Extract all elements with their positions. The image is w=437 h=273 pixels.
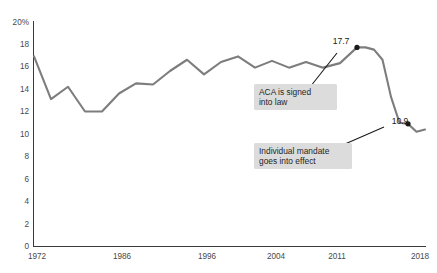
- data-point-marker: [354, 45, 359, 50]
- annotation-aca-signed: ACA is signed into law: [254, 84, 337, 110]
- y-tick-label: 2: [24, 220, 29, 229]
- y-tick-label: 4: [24, 197, 29, 206]
- x-tick-label: 1986: [113, 252, 132, 261]
- data-point-label-trough: 10.9: [392, 116, 409, 126]
- y-tick-label: 20%: [13, 18, 29, 27]
- annotation-line: Individual mandate: [259, 146, 330, 156]
- y-tick-label: 12: [20, 107, 30, 116]
- line-chart: 20% 18 16 14 12 10 8 6 4 2 0 1972 1986 1…: [0, 0, 437, 273]
- annotation-line: ACA is signed: [259, 87, 311, 97]
- y-tick-label: 18: [20, 40, 30, 49]
- x-tick-label: 1972: [28, 252, 47, 261]
- y-tick-label: 14: [20, 85, 30, 94]
- data-point-label-peak: 17.7: [333, 36, 350, 46]
- annotation-line: into law: [259, 97, 288, 107]
- y-tick-label: 8: [24, 152, 29, 161]
- x-tick-label: 2018: [411, 252, 430, 261]
- x-tick-label: 2004: [267, 252, 286, 261]
- annotation-line: goes into effect: [259, 156, 316, 166]
- y-tick-label: 6: [24, 175, 29, 184]
- x-tick-label: 1996: [198, 252, 217, 261]
- y-tick-label: 0: [24, 242, 29, 251]
- x-tick-label: 2011: [328, 252, 346, 261]
- chart-background: [0, 0, 437, 273]
- chart-container: 20% 18 16 14 12 10 8 6 4 2 0 1972 1986 1…: [0, 0, 437, 273]
- y-tick-label: 10: [20, 130, 30, 139]
- y-tick-label: 16: [20, 62, 30, 71]
- annotation-individual-mandate: Individual mandate goes into effect: [254, 143, 352, 169]
